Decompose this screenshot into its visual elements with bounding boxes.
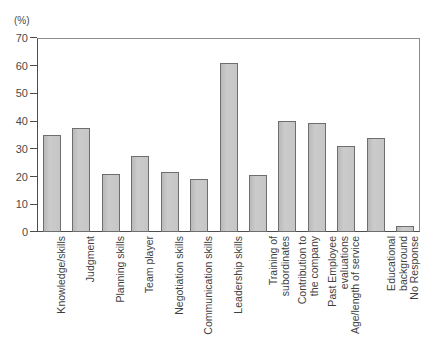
bar [43, 135, 61, 232]
y-axis-tick [30, 65, 37, 66]
bar [131, 156, 149, 232]
y-axis-tick [30, 148, 37, 149]
x-axis-label: Contribution tothe company [297, 236, 320, 304]
x-axis-label: Communication skills [203, 236, 215, 335]
y-axis-tick [30, 231, 37, 232]
bar [72, 128, 90, 232]
y-axis-tick-label: 60 [6, 60, 28, 72]
bar [220, 63, 238, 232]
bar [396, 226, 414, 232]
bar [190, 179, 208, 232]
x-axis-category-labels: Knowledge/skillsJudgmentPlanning skillsT… [0, 234, 436, 359]
x-axis-label: Team player [144, 236, 156, 293]
x-axis-label: Judgment [85, 236, 97, 282]
bar [308, 123, 326, 232]
y-axis-tick [30, 204, 37, 205]
bar [102, 174, 120, 232]
y-axis-tick [30, 176, 37, 177]
x-axis-label: Negotiation skills [174, 236, 186, 315]
bar-chart: (%) 010203040506070 Knowledge/skillsJudg… [0, 0, 436, 359]
bar [161, 172, 179, 232]
y-axis-unit-label: (%) [14, 15, 30, 26]
x-axis-label: Planning skills [115, 236, 127, 303]
y-axis-tick-label: 30 [6, 143, 28, 155]
y-axis-tick-label: 50 [6, 87, 28, 99]
y-axis-tick-label: 70 [6, 32, 28, 44]
x-axis-label: Educationalbackground [386, 236, 409, 291]
y-axis-tick-label: 20 [6, 171, 28, 183]
bar [249, 175, 267, 232]
y-axis-tick [30, 121, 37, 122]
y-axis-tick-label: 40 [6, 115, 28, 127]
x-axis-label: No Response [409, 236, 421, 300]
x-axis-label: Knowledge/skills [56, 236, 68, 314]
y-axis-tick-label: 10 [6, 198, 28, 210]
x-axis-label: Past Employeeevaluations [327, 236, 350, 307]
x-axis-label: Leadership skills [233, 236, 245, 314]
y-axis-tick [30, 37, 37, 38]
bar [367, 138, 385, 232]
x-axis-label: Age/length of service [350, 236, 362, 334]
bar [278, 121, 296, 232]
x-axis-label: Training ofsubordinates [268, 236, 291, 296]
y-axis-tick [30, 93, 37, 94]
bar [337, 146, 355, 232]
